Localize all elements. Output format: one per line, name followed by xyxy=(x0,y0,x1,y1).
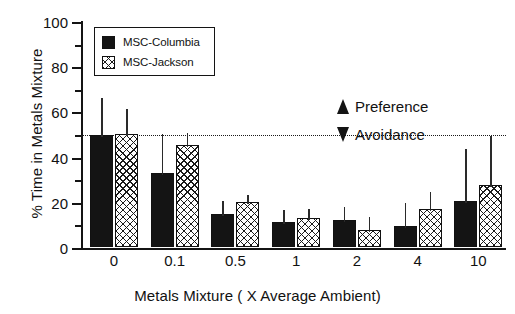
bar xyxy=(272,222,295,247)
y-tick-label: 40 xyxy=(51,149,68,166)
error-bar xyxy=(465,149,467,203)
x-tick-label: 10 xyxy=(470,252,487,269)
error-bar xyxy=(344,207,346,222)
annotation-avoidance: Avoidance xyxy=(337,126,425,143)
y-tick-minor xyxy=(75,45,81,47)
y-tick-major xyxy=(72,67,81,69)
legend-swatch-solid-icon xyxy=(102,36,115,49)
legend-label-msc-columbia: MSC-Columbia xyxy=(123,36,200,48)
y-tick-minor xyxy=(75,225,81,227)
bar-group xyxy=(272,21,320,247)
y-tick-minor xyxy=(75,90,81,92)
error-bar xyxy=(247,195,249,204)
bar xyxy=(479,185,502,247)
error-bar xyxy=(369,217,371,233)
error-bar xyxy=(283,210,285,224)
bar-group xyxy=(454,21,502,247)
arrow-up-icon xyxy=(337,99,349,114)
y-axis-label: % Time in Metals Mixture xyxy=(28,24,45,244)
bar xyxy=(297,218,320,247)
legend-item-msc-columbia: MSC-Columbia xyxy=(102,34,200,50)
x-tick-label: 0.5 xyxy=(225,252,246,269)
error-bar xyxy=(308,209,310,220)
bar xyxy=(419,209,442,247)
x-tick-label: 0.1 xyxy=(164,252,185,269)
bar xyxy=(90,135,113,247)
x-axis-label: Metals Mixture ( X Average Ambient) xyxy=(0,287,515,304)
x-tick-label: 2 xyxy=(353,252,361,269)
bar xyxy=(454,201,477,247)
y-tick-label: 100 xyxy=(43,14,68,31)
x-tick-label: 0 xyxy=(110,252,118,269)
y-tick-label: 0 xyxy=(60,240,68,257)
legend-label-msc-jackson: MSC-Jackson xyxy=(123,56,193,68)
bar xyxy=(151,173,174,247)
legend-box: MSC-Columbia MSC-Jackson xyxy=(94,27,215,76)
error-bar xyxy=(187,133,189,147)
bar xyxy=(176,145,199,247)
legend-item-msc-jackson: MSC-Jackson xyxy=(102,54,193,70)
error-bar xyxy=(405,203,407,228)
error-bar xyxy=(162,134,164,175)
annotation-preference-label: Preference xyxy=(355,98,428,115)
error-bar xyxy=(126,109,128,136)
bar-group xyxy=(211,21,259,247)
y-tick-label: 20 xyxy=(51,194,68,211)
legend-swatch-hatch-icon xyxy=(102,56,115,69)
y-tick-label: 80 xyxy=(51,59,68,76)
y-tick-major xyxy=(72,203,81,205)
error-bar xyxy=(101,98,103,137)
bar-chart-figure: % Time in Metals Mixture Metals Mixture … xyxy=(0,0,515,314)
error-bar xyxy=(430,192,432,211)
annotation-avoidance-label: Avoidance xyxy=(355,126,425,143)
bar xyxy=(115,134,138,247)
y-tick-major xyxy=(72,112,81,114)
error-bar xyxy=(222,201,224,216)
bar xyxy=(394,226,417,247)
arrow-down-icon xyxy=(337,127,349,142)
bar xyxy=(211,214,234,247)
bar xyxy=(333,220,356,247)
y-tick-major xyxy=(72,22,81,24)
x-tick-label: 4 xyxy=(413,252,421,269)
error-bar xyxy=(490,136,492,187)
bar xyxy=(358,230,381,247)
y-tick-minor xyxy=(75,180,81,182)
bar xyxy=(236,202,259,247)
annotation-preference: Preference xyxy=(337,98,428,115)
y-axis-tick-labels: 020406080100 xyxy=(67,21,68,249)
x-axis-tick-labels: 00.10.512410 xyxy=(81,252,506,274)
x-tick-label: 1 xyxy=(292,252,300,269)
y-tick-major xyxy=(72,248,81,250)
y-tick-label: 60 xyxy=(51,104,68,121)
x-axis-line xyxy=(81,248,506,250)
y-tick-major xyxy=(72,158,81,160)
